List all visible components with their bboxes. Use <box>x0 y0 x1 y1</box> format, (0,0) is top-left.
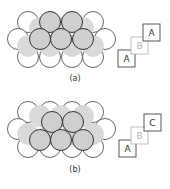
panel-a-stack-squares: A B A <box>118 24 160 67</box>
sphere-c <box>73 130 94 151</box>
panel-b-caption: (b) <box>69 165 80 174</box>
panel-a-caption: (a) <box>69 74 80 83</box>
sphere-c <box>51 130 72 151</box>
sphere-a-top <box>73 29 94 50</box>
stacking-diagram: A B A (a) <box>0 0 170 189</box>
square-layer-2-label: B <box>136 41 142 51</box>
panel-b-stack-squares: A B C <box>119 114 161 157</box>
sphere-c <box>30 130 51 151</box>
sphere-a-top <box>51 29 72 50</box>
square-layer-1-label: A <box>123 54 130 64</box>
panel-b: A B C (b) <box>8 102 162 175</box>
panel-a: A B A (a) <box>8 12 161 84</box>
sphere-a-top <box>30 29 51 50</box>
square-layer-1-label: A <box>124 144 131 154</box>
square-layer-2-label: B <box>136 131 142 141</box>
square-layer-3-label: C <box>149 118 155 128</box>
square-layer-3-label: A <box>148 28 155 38</box>
